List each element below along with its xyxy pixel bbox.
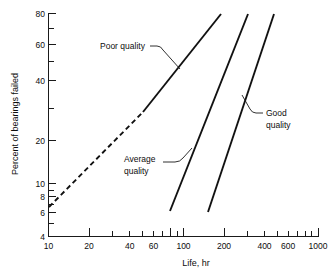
annotation-good-quality: Good quality [242,95,291,130]
y-axis-tick-labels: 80 60 40 20 10 8 6 4 [36,9,46,242]
series-line-good-quality [208,14,274,212]
y-label-10: 10 [36,179,46,189]
y-label-20: 20 [36,136,46,146]
x-label-1000: 1000 [309,241,328,251]
annotation-label-average-quality-line2: quality [124,166,149,176]
x-axis-title: Life, hr [182,258,210,268]
annotation-average-quality: Average quality [124,148,192,176]
y-label-8: 8 [40,192,45,202]
y-label-40: 40 [36,76,46,86]
y-axis-major-ticks [49,14,57,237]
leader-line-average-quality [163,148,192,162]
chart-canvas: 80 60 40 20 10 8 6 4 [0,0,336,276]
y-label-80: 80 [36,9,46,19]
x-axis-tick-labels: 10 20 40 60 100 200 400 600 1000 [44,241,328,251]
x-label-200: 200 [217,241,231,251]
leader-line-poor-quality [150,46,180,69]
x-label-100: 100 [176,241,190,251]
series-line-poor-quality-solid [143,14,221,112]
x-label-400: 400 [257,241,271,251]
annotation-label-poor-quality: Poor quality [100,41,146,51]
annotation-label-average-quality-line1: Average [124,154,156,164]
annotation-poor-quality: Poor quality [100,41,180,69]
y-axis-title: Percent of bearings failed [10,73,20,175]
y-label-4: 4 [40,232,45,242]
x-label-20: 20 [84,241,94,251]
series-line-average-quality [170,14,248,211]
x-axis-ticks [89,228,318,237]
y-label-60: 60 [36,40,46,50]
x-label-60: 60 [149,241,159,251]
weibull-bearing-life-chart: 80 60 40 20 10 8 6 4 [0,0,336,276]
y-axis-minor-ticks [49,29,54,224]
annotation-label-good-quality-line2: quality [266,120,291,130]
x-label-600: 600 [281,241,295,251]
annotation-label-good-quality-line1: Good [266,108,287,118]
x-label-10: 10 [44,241,54,251]
x-label-40: 40 [125,241,135,251]
y-label-6: 6 [40,208,45,218]
data-series-group [49,14,274,212]
